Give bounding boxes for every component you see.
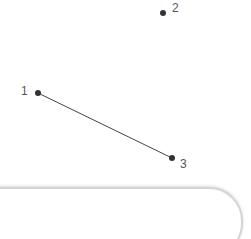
dot-label-3: 3 — [180, 157, 187, 171]
dot-label-1: 1 — [21, 84, 28, 98]
dot-label-2: 2 — [172, 1, 179, 15]
dot-1[interactable] — [35, 90, 41, 96]
dot-2[interactable] — [160, 10, 166, 16]
connecting-line — [38, 93, 172, 158]
answer-box[interactable] — [0, 187, 243, 239]
dot-3[interactable] — [169, 155, 175, 161]
